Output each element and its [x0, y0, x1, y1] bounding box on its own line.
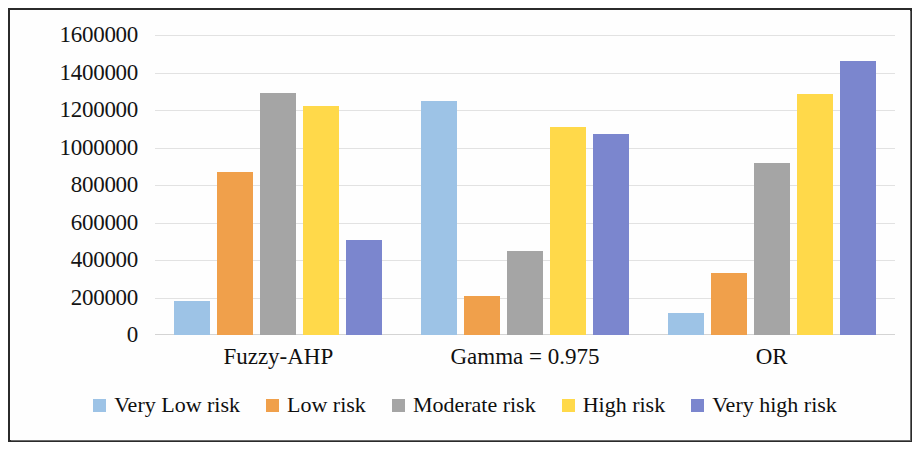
bar: [260, 93, 296, 335]
legend-swatch-icon: [691, 399, 704, 412]
bar-groups: [155, 35, 895, 335]
chart-figure: Number of pixels 16000001400000120000010…: [0, 0, 924, 456]
x-axis-category-label: Gamma = 0.975: [402, 344, 649, 370]
bar: [421, 101, 457, 335]
bar: [346, 240, 382, 335]
legend-swatch-icon: [392, 399, 405, 412]
y-axis-tick-label: 1000000: [0, 135, 138, 161]
bar: [593, 134, 629, 335]
legend-swatch-icon: [93, 399, 106, 412]
y-axis-tick-label: 1200000: [0, 97, 138, 123]
y-axis-tick-label: 1400000: [0, 60, 138, 86]
bar: [840, 61, 876, 335]
legend-item[interactable]: Very high risk: [691, 392, 837, 418]
y-axis-tick-label: 800000: [0, 172, 138, 198]
y-axis-tick-label: 200000: [0, 285, 138, 311]
bar: [797, 94, 833, 335]
bar: [507, 251, 543, 335]
bar: [668, 313, 704, 336]
bar: [217, 172, 253, 335]
bar: [174, 301, 210, 335]
legend-item[interactable]: High risk: [562, 392, 666, 418]
chart-legend: Very Low riskLow riskModerate riskHigh r…: [40, 392, 890, 418]
bar: [464, 296, 500, 335]
legend-item[interactable]: Moderate risk: [392, 392, 536, 418]
bar-group: [648, 35, 895, 335]
legend-label: High risk: [583, 392, 666, 418]
legend-item[interactable]: Low risk: [266, 392, 366, 418]
legend-label: Very Low risk: [114, 392, 240, 418]
bar: [550, 127, 586, 335]
x-axis-category-label: Fuzzy-AHP: [155, 344, 402, 370]
bar-chart: Number of pixels 16000001400000120000010…: [0, 0, 924, 456]
legend-label: Low risk: [287, 392, 366, 418]
bar: [711, 273, 747, 335]
legend-swatch-icon: [266, 399, 279, 412]
y-axis-tick-label: 600000: [0, 210, 138, 236]
x-axis-category-label: OR: [648, 344, 895, 370]
bar-group: [402, 35, 649, 335]
x-axis-category-labels: Fuzzy-AHPGamma = 0.975OR: [155, 344, 895, 370]
y-axis-tick-label: 1600000: [0, 22, 138, 48]
bar: [303, 106, 339, 335]
y-axis-tick-labels: 1600000140000012000001000000800000600000…: [0, 0, 150, 456]
legend-swatch-icon: [562, 399, 575, 412]
y-axis-tick-label: 400000: [0, 247, 138, 273]
y-axis-tick-label: 0: [0, 322, 138, 348]
bar-group: [155, 35, 402, 335]
legend-item[interactable]: Very Low risk: [93, 392, 240, 418]
legend-label: Very high risk: [712, 392, 837, 418]
bar: [754, 163, 790, 336]
legend-label: Moderate risk: [413, 392, 536, 418]
